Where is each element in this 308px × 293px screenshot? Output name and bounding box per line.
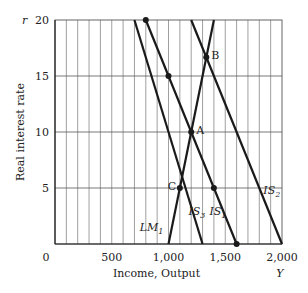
y-tick-label: 20 (35, 14, 49, 27)
is-lm-chart: 510152005001,0001,5002,000rYIncome, Outp… (0, 0, 308, 293)
x-tick-label: 1,000 (153, 251, 185, 264)
x-axis-symbol: Y (276, 267, 285, 280)
x-tick-label: 0 (43, 251, 50, 264)
x-tick-label: 1,500 (210, 251, 242, 264)
point-label-c: C (168, 180, 176, 193)
y-axis-symbol: r (22, 14, 28, 27)
equilibrium-point-c (177, 185, 183, 191)
equilibrium-point (211, 185, 217, 191)
curve-label-is1: IS1 (208, 205, 226, 220)
curve-label-lm1: LM1 (139, 221, 164, 236)
curve-label-is2: IS2 (262, 184, 280, 199)
chart-canvas: 510152005001,0001,5002,000rYIncome, Outp… (0, 0, 308, 293)
point-label-a: A (195, 124, 205, 137)
equilibrium-point-a (188, 129, 194, 135)
y-tick-label: 15 (35, 70, 49, 83)
x-tick-label: 2,000 (266, 251, 298, 264)
point-label-b: B (211, 49, 219, 62)
equilibrium-point (143, 17, 149, 23)
y-tick-label: 5 (42, 182, 49, 195)
y-axis-title: Real interest rate (14, 83, 27, 181)
equilibrium-point (234, 241, 240, 247)
y-tick-label: 10 (35, 126, 49, 139)
x-axis-title: Income, Output (113, 267, 201, 280)
equilibrium-point-b (203, 54, 209, 60)
equilibrium-point (166, 73, 172, 79)
x-tick-label: 500 (101, 251, 122, 264)
